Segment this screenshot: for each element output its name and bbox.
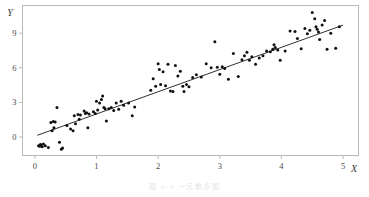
- data-point: [101, 95, 104, 98]
- data-point: [154, 85, 157, 88]
- data-point: [289, 29, 292, 32]
- data-point: [187, 85, 190, 88]
- data-point: [65, 124, 68, 127]
- data-point: [149, 89, 152, 92]
- data-point: [276, 48, 279, 51]
- data-point: [213, 40, 216, 43]
- y-tick-label-3: 9: [12, 28, 16, 38]
- data-point: [271, 48, 274, 51]
- x-axis-tick-labels: 012345: [33, 161, 346, 171]
- data-point: [115, 102, 118, 105]
- data-point: [218, 73, 221, 76]
- data-point: [104, 107, 107, 110]
- data-point: [86, 126, 89, 129]
- data-point: [303, 27, 306, 30]
- data-point: [221, 65, 224, 68]
- y-axis-label: Y: [7, 7, 14, 18]
- data-point: [120, 100, 123, 103]
- data-point: [269, 50, 272, 53]
- x-axis-ticks: [35, 156, 343, 160]
- y-axis-tick-labels: 0369: [12, 28, 16, 142]
- data-point: [110, 106, 113, 109]
- data-point: [200, 76, 203, 79]
- scatter-figure: 012345 0369 X Y 图 4-3 一元散点图: [0, 0, 369, 197]
- data-point: [88, 112, 91, 115]
- data-point: [131, 114, 134, 117]
- data-point: [326, 48, 329, 51]
- data-point: [41, 145, 44, 148]
- data-point: [96, 108, 99, 111]
- y-tick-label-1: 3: [12, 97, 16, 107]
- x-tick-label-3: 3: [218, 161, 222, 171]
- data-point: [284, 50, 287, 53]
- data-point: [54, 121, 57, 124]
- data-point: [254, 63, 257, 66]
- data-point: [311, 11, 314, 14]
- scatter-plot-canvas: 012345 0369 X Y: [0, 0, 369, 197]
- x-axis-label: X: [350, 163, 358, 174]
- data-point: [176, 74, 179, 77]
- data-point: [73, 114, 76, 117]
- y-tick-label-2: 6: [12, 63, 16, 73]
- data-point: [318, 38, 321, 41]
- data-point: [300, 47, 303, 50]
- data-point: [122, 104, 125, 107]
- data-point: [174, 64, 177, 67]
- data-point: [159, 83, 162, 86]
- data-point: [72, 129, 75, 132]
- data-point: [216, 66, 219, 69]
- data-point: [273, 43, 276, 46]
- data-point: [205, 62, 208, 65]
- data-point: [265, 50, 268, 53]
- data-point: [338, 25, 341, 28]
- data-point: [98, 102, 101, 105]
- data-point: [94, 112, 97, 115]
- data-point: [210, 66, 213, 69]
- x-tick-label-2: 2: [156, 161, 160, 171]
- data-point: [223, 67, 226, 70]
- data-point: [152, 77, 155, 80]
- data-point: [58, 141, 61, 144]
- x-tick-label-0: 0: [33, 161, 37, 171]
- data-point: [195, 73, 198, 76]
- data-point: [105, 119, 108, 122]
- data-point: [243, 54, 246, 57]
- data-point: [191, 76, 194, 79]
- data-point: [157, 62, 160, 65]
- figure-caption: 图 4-3 一元散点图: [0, 181, 369, 191]
- data-point: [74, 122, 77, 125]
- data-point: [279, 59, 282, 62]
- data-point: [185, 83, 188, 86]
- data-point: [164, 84, 167, 87]
- x-tick-label-4: 4: [279, 161, 284, 171]
- data-point: [179, 70, 182, 73]
- data-point: [181, 85, 184, 88]
- data-point: [44, 144, 47, 147]
- data-point: [127, 102, 130, 105]
- data-point: [79, 114, 82, 117]
- data-point: [323, 19, 326, 22]
- x-tick-label-5: 5: [341, 161, 345, 171]
- data-point: [117, 108, 120, 111]
- data-point: [258, 57, 261, 60]
- data-point: [308, 29, 311, 32]
- data-point: [245, 51, 248, 54]
- data-point: [61, 147, 64, 150]
- data-point: [171, 90, 174, 93]
- data-point: [158, 68, 161, 71]
- data-point: [248, 59, 251, 62]
- data-point: [78, 118, 81, 121]
- data-point: [166, 63, 169, 66]
- data-point: [162, 70, 165, 73]
- data-point: [133, 106, 136, 109]
- y-tick-label-0: 0: [12, 132, 16, 142]
- data-point: [232, 52, 235, 55]
- data-point: [52, 126, 55, 129]
- data-point: [316, 28, 319, 31]
- data-point: [69, 127, 72, 130]
- data-point: [56, 106, 59, 109]
- data-point: [296, 37, 299, 40]
- data-point: [250, 55, 253, 58]
- data-point: [112, 109, 115, 112]
- data-point: [95, 100, 98, 103]
